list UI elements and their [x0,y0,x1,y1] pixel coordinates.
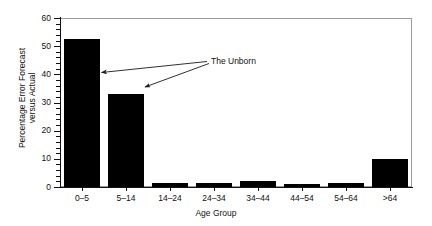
x-axis-tick-label: >64 [383,193,397,203]
x-axis-tick [214,187,215,191]
x-axis-tick [390,187,391,191]
x-axis-tick-label: 54–64 [334,193,358,203]
y-axis-tick-label: 20 [42,126,51,134]
bar [372,159,407,187]
x-axis-line [60,187,413,188]
x-axis-tick-label: 14–24 [158,193,182,203]
x-axis-tick [170,187,171,191]
x-axis-tick [258,187,259,191]
bar [64,39,99,187]
x-axis-tick-label: 34–44 [246,193,270,203]
x-axis-tick [302,187,303,191]
y-axis-tick-label: 0 [46,183,51,191]
y-axis-tick-label: 40 [42,70,51,78]
annotation-the-unborn: The Unborn [211,56,256,66]
x-axis-tick [126,187,127,191]
bar [108,94,143,187]
x-axis-tick-label: 44–54 [290,193,314,203]
y-axis-tick-label: 30 [42,98,51,106]
bar-chart-figure: Percentage Error Forecast versus Actual … [0,0,432,226]
x-axis-tick [346,187,347,191]
y-axis-tick-label: 50 [42,42,51,50]
x-axis-tick [82,187,83,191]
y-axis-tick-label: 10 [42,154,51,162]
x-axis-tick-label: 5–14 [117,193,136,203]
x-axis-tick-label: 24–34 [202,193,226,203]
y-axis-tick-labels: 0102030405060 [0,0,51,226]
bar-series [60,18,412,187]
x-axis-tick-label: 0–5 [75,193,89,203]
x-axis-title: Age Group [0,208,432,218]
y-axis-tick-label: 60 [42,14,51,22]
